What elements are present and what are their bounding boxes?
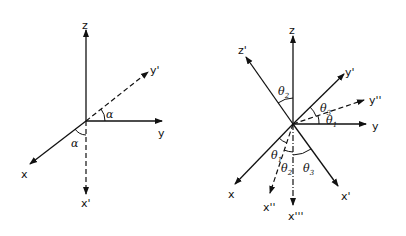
label-x-triple-prime: x''' xyxy=(288,210,304,223)
label-x: x xyxy=(228,188,235,201)
label-y: y xyxy=(372,120,379,133)
y-prime-axis xyxy=(86,72,148,121)
label-y: y xyxy=(158,127,165,140)
label-x-double-prime: x'' xyxy=(263,201,276,214)
x-axis xyxy=(235,124,293,184)
label-theta3-lower: θ3 xyxy=(303,162,315,177)
label-theta2-upper: θ2 xyxy=(278,85,290,100)
label-y-prime: y' xyxy=(345,66,355,79)
rotation-diagram: z y x y' x' α α z z' y y' y'' x x' x'' x… xyxy=(0,0,406,236)
label-theta1-upper: θ1 xyxy=(326,114,337,129)
theta1-arc-lower xyxy=(279,138,287,143)
label-y-double-prime: y'' xyxy=(369,94,382,107)
label-alpha-lower: α xyxy=(71,137,79,150)
alpha-arc-upper xyxy=(101,109,105,121)
label-alpha-upper: α xyxy=(106,108,114,121)
left-figure: z y x y' x' α α xyxy=(21,19,165,210)
label-z: z xyxy=(82,19,88,32)
label-theta2-lower: θ2 xyxy=(281,162,293,177)
right-figure: z z' y y' y'' x x' x'' x''' θ2 θ3 θ1 θ1 … xyxy=(228,24,382,223)
theta3-arc-lower xyxy=(293,149,311,155)
label-z-prime: z' xyxy=(238,44,247,57)
x-prime-axis xyxy=(293,124,338,186)
label-x-prime: x' xyxy=(341,190,351,203)
theta2-arc-lower xyxy=(284,150,293,152)
label-x-prime: x' xyxy=(81,197,91,210)
label-y-prime: y' xyxy=(150,64,160,77)
theta1-arc-upper xyxy=(318,116,319,124)
label-z: z xyxy=(289,24,295,37)
z-prime-axis xyxy=(246,57,293,124)
alpha-arc-lower xyxy=(75,129,86,135)
theta3-arc-upper xyxy=(310,107,316,116)
label-x: x xyxy=(21,168,28,181)
